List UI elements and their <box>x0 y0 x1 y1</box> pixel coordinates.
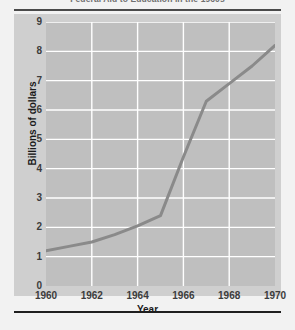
y-axis-tick-label: 7 <box>26 76 42 86</box>
x-axis-tick-label: 1968 <box>218 290 240 301</box>
bottom-divider <box>14 311 281 313</box>
x-axis-tick-label: 1970 <box>264 290 286 301</box>
chart-panel: Billions of dollars 0123456789 196019621… <box>14 14 281 296</box>
y-axis-tick-label: 5 <box>26 134 42 144</box>
vertical-gridlines <box>92 22 229 286</box>
y-axis-tick-label: 2 <box>26 222 42 232</box>
x-axis-tick-label: 1960 <box>35 290 57 301</box>
y-axis-tick-label: 9 <box>26 17 42 27</box>
y-axis-tick-label: 6 <box>26 105 42 115</box>
chart-figure: Federal Aid to Education in the 1960s Bi… <box>0 0 295 330</box>
x-axis-title: Year <box>14 304 281 315</box>
y-axis-tick-label: 3 <box>26 193 42 203</box>
title-divider <box>14 9 281 11</box>
plot-area <box>46 22 275 286</box>
y-axis-ticks: 0123456789 <box>26 22 42 286</box>
x-axis-tick-label: 1964 <box>126 290 148 301</box>
y-axis-tick-label: 1 <box>26 252 42 262</box>
line-chart-svg <box>46 22 275 286</box>
chart-title: Federal Aid to Education in the 1960s <box>0 0 295 4</box>
x-axis-ticks: 196019621964196619681970 <box>46 290 275 304</box>
x-axis-tick-label: 1962 <box>81 290 103 301</box>
y-axis-tick-label: 4 <box>26 164 42 174</box>
x-axis-tick-label: 1966 <box>172 290 194 301</box>
data-series-line <box>46 45 275 250</box>
horizontal-gridlines <box>46 22 275 257</box>
y-axis-tick-label: 8 <box>26 46 42 56</box>
